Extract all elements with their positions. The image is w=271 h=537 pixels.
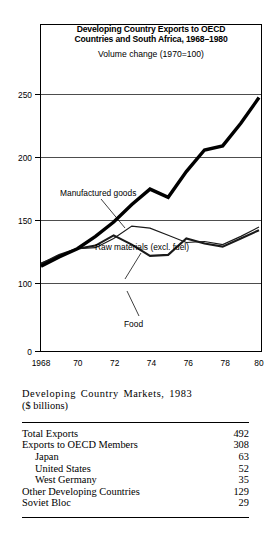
table-row-label: Total Exports: [22, 428, 203, 440]
table-row-label: West Germany: [22, 474, 203, 486]
table-row-label: Other Developing Countries: [22, 486, 203, 498]
x-tick-label-80: 80: [254, 358, 264, 368]
table-row-label: Japan: [22, 451, 203, 463]
x-tick-label-1968: 1968: [32, 358, 51, 368]
table-row-value: 35: [203, 474, 249, 486]
table-row: West Germany35: [22, 474, 249, 486]
table-row: Total Exports492: [22, 428, 249, 440]
table-row-value: 492: [203, 428, 249, 440]
table-row-value: 29: [203, 497, 249, 509]
y-tick-marks: [35, 95, 41, 352]
exports-table: Total Exports492Exports to OECD Members3…: [22, 428, 249, 509]
table-caption-line-1: Developing Country Markets, 1983: [22, 388, 249, 400]
table-row-value: 63: [203, 451, 249, 463]
y-tick-label-200: 200: [18, 153, 32, 163]
annotation-food: Food: [124, 319, 143, 329]
x-tick-label-72: 72: [110, 358, 120, 368]
table-row: Exports to OECD Members308: [22, 439, 249, 451]
table-row-value: 52: [203, 463, 249, 475]
x-tick-label-78: 78: [221, 358, 231, 368]
table-row: Other Developing Countries129: [22, 486, 249, 498]
chart-figure: 250 200 150 100 0 1968 70 72 74 76 78 80…: [0, 0, 271, 375]
y-tick-label-100: 100: [18, 279, 32, 289]
table-rule-top: [22, 422, 249, 423]
x-tick-label-70: 70: [73, 358, 83, 368]
table-row-label: United States: [22, 463, 203, 475]
annotation-raw-materials: Raw materials (excl. fuel): [95, 242, 189, 252]
table-row: United States52: [22, 463, 249, 475]
table-row: Soviet Bloc29: [22, 497, 249, 509]
x-tick-label-74: 74: [147, 358, 157, 368]
y-tick-label-150: 150: [18, 216, 32, 226]
line-chart: 250 200 150 100 0 1968 70 72 74 76 78 80…: [0, 0, 271, 375]
table-row-value: 129: [203, 486, 249, 498]
table-row: Japan63: [22, 451, 249, 463]
table-rule-bottom: [22, 517, 249, 518]
y-tick-label-0: 0: [27, 347, 32, 357]
table-row-label: Soviet Bloc: [22, 497, 203, 509]
table-row-value: 308: [203, 439, 249, 451]
annotation-manufactured-goods: Manufactured goods: [60, 188, 136, 198]
table-caption-line-2: ($ billions): [22, 400, 249, 412]
series-line-manufactured-goods: [41, 98, 259, 267]
data-table-block: Developing Country Markets, 1983 ($ bill…: [0, 380, 271, 518]
table-row-label: Exports to OECD Members: [22, 439, 203, 451]
y-tick-label-250: 250: [18, 90, 32, 100]
x-tick-label-76: 76: [184, 358, 194, 368]
table-caption: Developing Country Markets, 1983 ($ bill…: [22, 380, 249, 413]
